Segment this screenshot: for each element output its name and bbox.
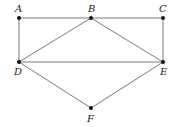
node-B [89,16,93,20]
node-F [89,106,93,110]
nodes [17,16,165,110]
edge-E-F [91,62,163,108]
edges [19,18,163,108]
node-E [161,60,165,64]
node-C [161,16,165,20]
edge-B-E [91,18,163,62]
node-label-C: C [159,3,167,14]
node-D [17,60,21,64]
node-label-F: F [86,113,95,124]
node-A [17,16,21,20]
node-label-A: A [14,3,22,14]
node-label-B: B [87,3,95,14]
node-label-D: D [13,66,22,77]
edge-B-D [19,18,91,62]
node-label-E: E [159,66,168,77]
graph-diagram: ABCDEF [0,0,173,127]
labels: ABCDEF [13,3,168,124]
edge-D-F [19,62,91,108]
